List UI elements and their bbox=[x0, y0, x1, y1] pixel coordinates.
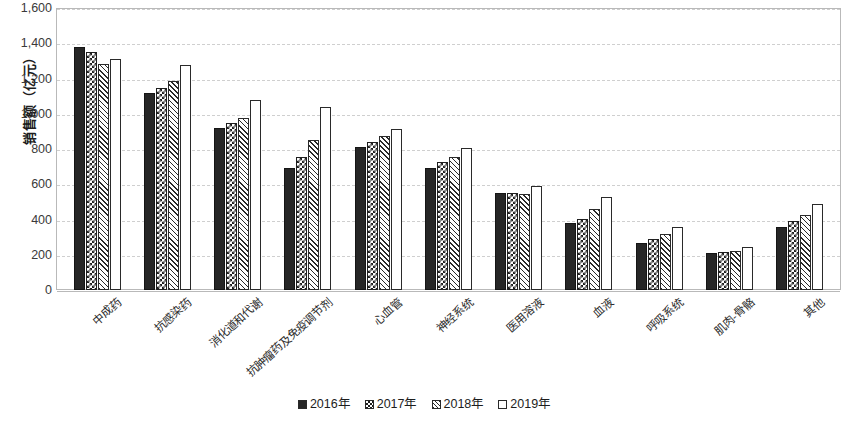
bar[interactable] bbox=[672, 227, 683, 290]
x-axis-label: 中成药 bbox=[113, 294, 124, 306]
y-tick-label: 400 bbox=[6, 213, 52, 227]
bar[interactable] bbox=[425, 168, 436, 290]
bar[interactable] bbox=[214, 128, 225, 290]
bar-group bbox=[273, 8, 343, 290]
y-tick-label: 1,400 bbox=[6, 36, 52, 50]
x-axis-label: 其他 bbox=[816, 294, 827, 306]
bar[interactable] bbox=[648, 239, 659, 290]
bar[interactable] bbox=[636, 243, 647, 290]
legend-swatch-icon bbox=[498, 400, 507, 409]
bar-group bbox=[62, 8, 132, 290]
bar[interactable] bbox=[519, 194, 530, 290]
bar[interactable] bbox=[391, 129, 402, 290]
legend-swatch-icon bbox=[298, 400, 307, 409]
y-tick-label: 1,000 bbox=[6, 107, 52, 121]
bar[interactable] bbox=[379, 136, 390, 290]
legend-item[interactable]: 2019年 bbox=[498, 398, 551, 411]
bar-group bbox=[343, 8, 413, 290]
x-axis-label: 肌肉-骨骼 bbox=[746, 294, 757, 306]
bar[interactable] bbox=[168, 81, 179, 290]
x-axis-label: 神经系统 bbox=[465, 294, 476, 306]
bar[interactable] bbox=[788, 221, 799, 290]
bar[interactable] bbox=[86, 52, 97, 290]
bar-group bbox=[484, 8, 554, 290]
y-axis-ticks: 1,6001,4001,2001,0008006004002000 bbox=[0, 0, 52, 427]
x-axis-label: 血液 bbox=[605, 294, 616, 306]
bar[interactable] bbox=[800, 215, 811, 290]
bar[interactable] bbox=[355, 147, 366, 290]
bar-group bbox=[694, 8, 764, 290]
bar[interactable] bbox=[730, 251, 741, 290]
y-tick-label: 0 bbox=[6, 283, 52, 297]
bar-chart: 销售额（亿元） 1,6001,4001,2001,000800600400200… bbox=[0, 0, 849, 427]
x-axis-label: 抗感染药 bbox=[183, 294, 194, 306]
bar[interactable] bbox=[74, 47, 85, 290]
chart-legend: 2016年2017年2018年2019年 bbox=[0, 398, 849, 411]
bar[interactable] bbox=[226, 123, 237, 290]
bar[interactable] bbox=[589, 209, 600, 290]
bar[interactable] bbox=[437, 162, 448, 290]
bar[interactable] bbox=[156, 88, 167, 290]
x-axis-label: 消化道和代谢 bbox=[254, 294, 265, 306]
y-tick-label: 800 bbox=[6, 142, 52, 156]
bar[interactable] bbox=[742, 247, 753, 290]
bar[interactable] bbox=[284, 168, 295, 290]
bar[interactable] bbox=[660, 234, 671, 290]
bar-group bbox=[765, 8, 835, 290]
bar[interactable] bbox=[296, 157, 307, 290]
bar[interactable] bbox=[449, 157, 460, 290]
x-axis-label: 抗肿瘤药及免疫调节剂 bbox=[324, 294, 335, 306]
bars-layer bbox=[56, 8, 841, 290]
bar[interactable] bbox=[110, 59, 121, 290]
x-axis-label: 呼吸系统 bbox=[675, 294, 686, 306]
bar[interactable] bbox=[238, 118, 249, 290]
bar-group bbox=[624, 8, 694, 290]
bar[interactable] bbox=[308, 140, 319, 290]
bar[interactable] bbox=[320, 107, 331, 290]
legend-item[interactable]: 2018年 bbox=[432, 398, 485, 411]
x-axis-label: 心血管 bbox=[394, 294, 405, 306]
bar[interactable] bbox=[180, 65, 191, 290]
bar-group bbox=[554, 8, 624, 290]
bar[interactable] bbox=[98, 64, 109, 290]
bar[interactable] bbox=[495, 193, 506, 290]
bar[interactable] bbox=[144, 93, 155, 290]
legend-label: 2019年 bbox=[510, 398, 551, 411]
bar-group bbox=[203, 8, 273, 290]
bar[interactable] bbox=[776, 227, 787, 290]
bar-group bbox=[132, 8, 202, 290]
bar[interactable] bbox=[718, 252, 729, 290]
y-tick-label: 200 bbox=[6, 248, 52, 262]
bar[interactable] bbox=[565, 223, 576, 290]
legend-swatch-icon bbox=[365, 400, 374, 409]
legend-swatch-icon bbox=[432, 400, 441, 409]
legend-label: 2016年 bbox=[310, 398, 351, 411]
bar[interactable] bbox=[367, 142, 378, 290]
y-tick-label: 1,200 bbox=[6, 72, 52, 86]
bar[interactable] bbox=[250, 100, 261, 290]
bar[interactable] bbox=[577, 219, 588, 290]
y-tick-label: 1,600 bbox=[6, 1, 52, 15]
legend-label: 2018年 bbox=[444, 398, 485, 411]
bar-group bbox=[413, 8, 483, 290]
x-axis-labels: 中成药抗感染药消化道和代谢抗肿瘤药及免疫调节剂心血管神经系统医用溶液血液呼吸系统… bbox=[56, 292, 841, 384]
bar[interactable] bbox=[531, 186, 542, 290]
bar[interactable] bbox=[507, 193, 518, 290]
bar[interactable] bbox=[812, 204, 823, 290]
legend-item[interactable]: 2017年 bbox=[365, 398, 418, 411]
bar[interactable] bbox=[601, 197, 612, 290]
x-axis-label: 医用溶液 bbox=[535, 294, 546, 306]
bar[interactable] bbox=[706, 253, 717, 290]
y-tick-label: 600 bbox=[6, 177, 52, 191]
legend-item[interactable]: 2016年 bbox=[298, 398, 351, 411]
bar[interactable] bbox=[461, 148, 472, 290]
plot-area bbox=[56, 8, 841, 290]
legend-label: 2017年 bbox=[377, 398, 418, 411]
